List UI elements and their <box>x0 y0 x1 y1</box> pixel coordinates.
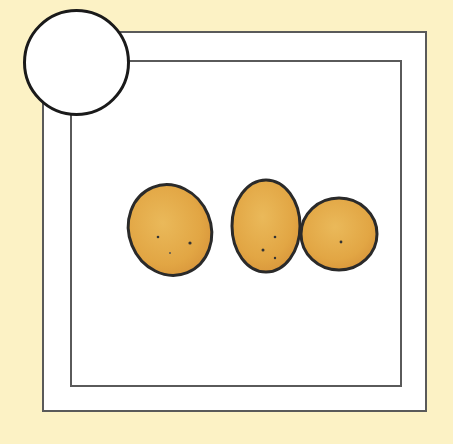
potato-left <box>115 172 225 288</box>
blank-circle-badge <box>23 9 130 116</box>
potato-middle <box>232 180 300 272</box>
potato-right <box>301 198 377 270</box>
